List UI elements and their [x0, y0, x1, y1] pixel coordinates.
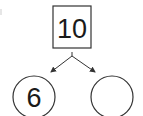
arrow-left — [51, 56, 72, 72]
part-circle-right — [91, 76, 133, 116]
part-circle-left: 6 — [13, 76, 55, 116]
edge-mark — [0, 9, 2, 15]
whole-box: 10 — [53, 6, 91, 48]
whole-value: 10 — [57, 14, 87, 44]
part-value-left: 6 — [26, 83, 41, 113]
connector-arrows — [51, 52, 95, 72]
number-bond-diagram: 10 6 — [0, 0, 143, 116]
arrow-right — [72, 56, 95, 72]
